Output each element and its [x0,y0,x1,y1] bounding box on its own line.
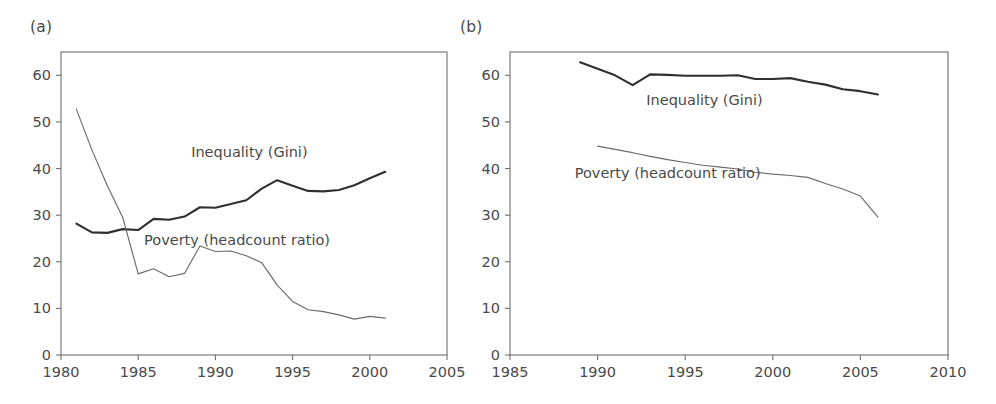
x-tick-label: 1980 [43,364,80,380]
x-tick-label: 2000 [351,364,388,380]
series-line-poverty [76,109,385,319]
panel-a-plot: 1980198519901995200020050102030405060Ine… [0,0,498,404]
y-tick-label: 10 [482,300,500,316]
y-tick-label: 30 [33,207,51,223]
y-tick-label: 40 [482,161,500,177]
y-tick-label: 50 [33,114,51,130]
x-tick-label: 1995 [274,364,311,380]
y-tick-label: 60 [33,67,51,83]
y-tick-label: 20 [482,254,500,270]
y-tick-label: 50 [482,114,500,130]
x-tick-label: 1990 [197,364,234,380]
series-annotation: Inequality (Gini) [191,144,307,160]
y-tick-label: 10 [33,300,51,316]
x-tick-label: 2000 [754,364,791,380]
panel-b: (b) 198519901995200020052010010203040506… [450,0,996,404]
panel-a: (a) 198019851990199520002005010203040506… [0,0,498,404]
series-annotation: Poverty (headcount ratio) [144,232,330,248]
y-tick-label: 0 [491,347,500,363]
x-tick-label: 1985 [120,364,157,380]
panel-b-plot: 1985199019952000200520100102030405060Ine… [450,0,996,404]
x-tick-label: 1990 [579,364,616,380]
x-tick-label: 2005 [842,364,879,380]
figure-two-panel-line-chart: (a) 198019851990199520002005010203040506… [0,0,996,404]
y-tick-label: 0 [42,347,51,363]
series-annotation: Poverty (headcount ratio) [575,165,761,181]
y-tick-label: 40 [33,161,51,177]
x-tick-label: 2010 [930,364,967,380]
x-tick-label: 1985 [492,364,529,380]
y-tick-label: 20 [33,254,51,270]
series-line-gini [76,172,385,233]
y-tick-label: 60 [482,67,500,83]
series-annotation: Inequality (Gini) [646,92,762,108]
y-tick-label: 30 [482,207,500,223]
series-line-poverty [598,146,878,217]
series-line-gini [580,62,878,94]
x-tick-label: 1995 [667,364,704,380]
